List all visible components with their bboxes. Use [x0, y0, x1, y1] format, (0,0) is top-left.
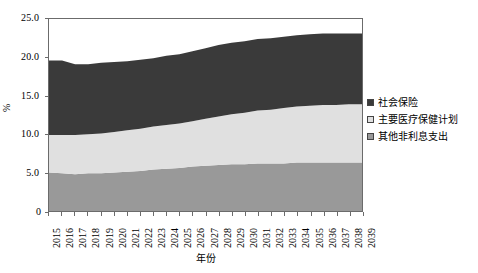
x-tick-label: 2039	[367, 228, 377, 248]
x-tick-mark	[232, 212, 233, 216]
x-tick-label: 2026	[196, 228, 206, 248]
x-tick-label: 2025	[183, 228, 193, 248]
legend-swatch-icon	[367, 133, 374, 140]
x-tick-label: 2024	[170, 228, 180, 248]
x-tick-label: 2029	[236, 228, 246, 248]
x-tick-label: 2019	[105, 228, 115, 248]
x-tick-mark	[363, 212, 364, 216]
legend-swatch-icon	[367, 116, 374, 123]
y-tick-label: 10.0	[21, 129, 39, 139]
x-tick-mark	[114, 212, 115, 216]
x-tick-label: 2035	[315, 228, 325, 248]
x-tick-mark	[166, 212, 167, 216]
x-axis-tick-labels: 2015201620172018201920202021202220232024…	[48, 218, 363, 252]
legend-item-label: 主要医疗保健计划	[378, 114, 458, 125]
x-tick-label: 2015	[52, 228, 62, 248]
y-tick-label: 20.0	[21, 52, 39, 62]
y-tick-label: 15.0	[21, 91, 39, 101]
legend-item-label: 社会保险	[378, 97, 418, 108]
x-tick-label: 2027	[210, 228, 220, 248]
x-axis-tick-marks	[48, 212, 363, 217]
x-tick-label: 2033	[288, 228, 298, 248]
x-tick-label: 2020	[118, 228, 128, 248]
x-tick-mark	[127, 212, 128, 216]
x-tick-label: 2034	[301, 228, 311, 248]
area-series-svg	[49, 19, 362, 211]
x-tick-label: 2022	[144, 228, 154, 248]
x-tick-mark	[284, 212, 285, 216]
y-tick-label: 25.0	[21, 13, 39, 23]
x-tick-mark	[324, 212, 325, 216]
x-tick-mark	[311, 212, 312, 216]
x-tick-label: 2028	[223, 228, 233, 248]
x-tick-mark	[192, 212, 193, 216]
x-tick-mark	[101, 212, 102, 216]
x-tick-label: 2031	[262, 228, 272, 248]
x-tick-label: 2032	[275, 228, 285, 248]
x-tick-label: 2038	[354, 228, 364, 248]
x-tick-mark	[350, 212, 351, 216]
x-tick-label: 2036	[328, 228, 338, 248]
x-tick-mark	[140, 212, 141, 216]
legend-item[interactable]: 社会保险	[367, 95, 477, 110]
x-tick-label: 2021	[131, 228, 141, 248]
x-tick-label: 2017	[78, 228, 88, 248]
legend-item[interactable]: 主要医疗保健计划	[367, 112, 477, 127]
x-axis-title: 年份	[48, 253, 363, 264]
x-tick-label: 2037	[341, 228, 351, 248]
y-axis-tick-labels: 5.010.015.020.025.0	[0, 18, 44, 212]
x-tick-label: 2023	[157, 228, 167, 248]
x-tick-label: 2016	[65, 228, 75, 248]
x-tick-mark	[337, 212, 338, 216]
stacked-area-chart: % 5.010.015.020.025.0 0 2015201620172018…	[0, 0, 478, 273]
legend-item-label: 其他非利息支出	[378, 131, 448, 142]
x-tick-mark	[153, 212, 154, 216]
x-tick-mark	[271, 212, 272, 216]
x-tick-mark	[61, 212, 62, 216]
plot-area	[48, 18, 363, 212]
x-tick-mark	[87, 212, 88, 216]
x-tick-mark	[179, 212, 180, 216]
x-tick-mark	[258, 212, 259, 216]
x-tick-mark	[206, 212, 207, 216]
y-tick-label: 5.0	[26, 168, 39, 178]
x-tick-mark	[297, 212, 298, 216]
chart-legend: 社会保险主要医疗保健计划其他非利息支出	[367, 95, 477, 146]
legend-item[interactable]: 其他非利息支出	[367, 129, 477, 144]
x-tick-label: 2018	[91, 228, 101, 248]
x-tick-mark	[48, 212, 49, 216]
y-axis-zero-label: 0	[36, 207, 41, 217]
x-tick-label: 2030	[249, 228, 259, 248]
x-tick-mark	[245, 212, 246, 216]
legend-swatch-icon	[367, 99, 374, 106]
x-tick-mark	[219, 212, 220, 216]
x-tick-mark	[74, 212, 75, 216]
